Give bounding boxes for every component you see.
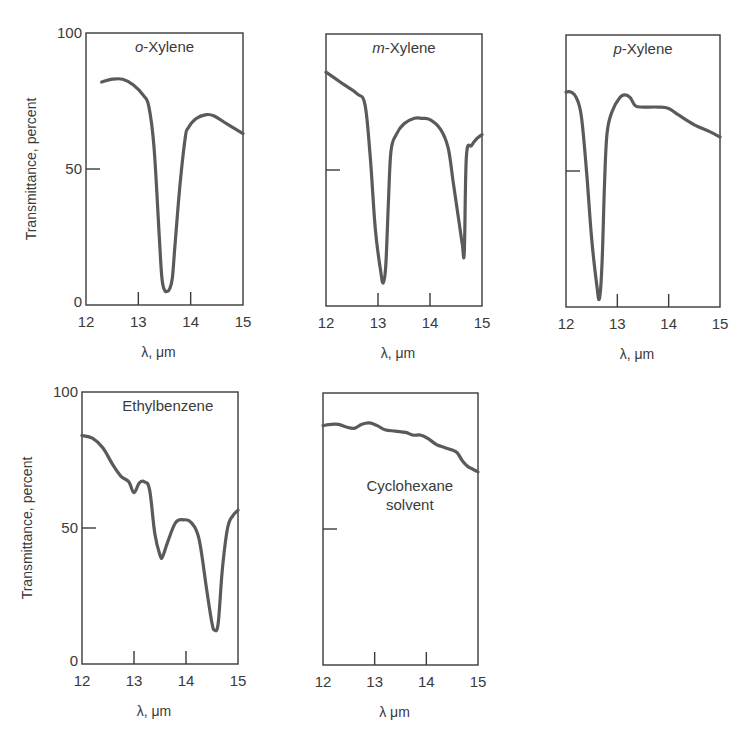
y-axis-title: Transmittance, percent bbox=[19, 457, 35, 600]
x-tick-label: 15 bbox=[235, 313, 252, 330]
y-axis-title: Transmittance, percent bbox=[23, 98, 39, 241]
x-tick-label: 14 bbox=[178, 672, 195, 689]
panel-title: solvent bbox=[386, 496, 434, 513]
x-tick-label: 15 bbox=[470, 673, 487, 690]
y-tick-label: 100 bbox=[53, 383, 78, 400]
y-tick-label: 100 bbox=[57, 24, 82, 41]
x-tick-label: 14 bbox=[422, 314, 439, 331]
x-tick-label: 13 bbox=[130, 313, 147, 330]
y-tick-label: 50 bbox=[65, 160, 82, 177]
spectra-figure: 12131415050100Transmittance, percentλ, μ… bbox=[0, 0, 747, 741]
panel-title: Ethylbenzene bbox=[122, 397, 213, 414]
y-tick-label: 0 bbox=[74, 293, 82, 310]
x-tick-label: 15 bbox=[230, 672, 247, 689]
y-tick-label: 50 bbox=[61, 519, 78, 536]
x-axis-title: λ, μm bbox=[137, 703, 172, 719]
x-axis-title: λ, μm bbox=[141, 344, 176, 360]
x-axis-title: λ, μm bbox=[620, 346, 655, 362]
ethylbenzene-spectrum-curve bbox=[82, 436, 238, 631]
plot-frame bbox=[323, 393, 478, 665]
panel-title: o-Xylene bbox=[135, 38, 194, 55]
plot-frame bbox=[86, 33, 243, 305]
x-tick-label: 15 bbox=[474, 314, 491, 331]
panel-title: m-Xylene bbox=[372, 39, 435, 56]
plot-frame bbox=[566, 35, 720, 307]
x-tick-label: 13 bbox=[126, 672, 143, 689]
panel-title: Cyclohexane bbox=[366, 477, 453, 494]
y-tick-label: 0 bbox=[70, 652, 78, 669]
x-tick-label: 12 bbox=[558, 315, 575, 332]
x-tick-label: 13 bbox=[609, 315, 626, 332]
m-xylene-spectrum-curve bbox=[326, 72, 482, 283]
chart-panel-o-xylene: 12131415050100Transmittance, percentλ, μ… bbox=[23, 24, 251, 360]
x-tick-label: 13 bbox=[370, 314, 387, 331]
x-tick-label: 12 bbox=[315, 673, 332, 690]
cyclohexane-solvent-spectrum-curve bbox=[323, 423, 478, 472]
o-xylene-spectrum-curve bbox=[102, 79, 243, 292]
x-axis-title: λ μm bbox=[379, 704, 410, 720]
chart-panel-m-xylene: 12131415λ, μmm-Xylene bbox=[318, 34, 491, 361]
chart-panel-ethylbenzene: 12131415050100Transmittance, percentλ, μ… bbox=[19, 383, 246, 719]
panel-title: p-Xylene bbox=[612, 40, 672, 57]
plot-frame bbox=[82, 392, 238, 664]
chart-panel-p-xylene: 12131415λ, μmp-Xylene bbox=[558, 35, 729, 362]
chart-panel-cyclohexane: 12131415λ μmCyclohexanesolvent bbox=[315, 393, 487, 720]
x-axis-title: λ, μm bbox=[381, 345, 416, 361]
x-tick-label: 12 bbox=[74, 672, 91, 689]
x-tick-label: 14 bbox=[418, 673, 435, 690]
x-tick-label: 13 bbox=[366, 673, 383, 690]
x-tick-label: 14 bbox=[660, 315, 677, 332]
x-tick-label: 14 bbox=[182, 313, 199, 330]
x-tick-label: 12 bbox=[78, 313, 95, 330]
x-tick-label: 15 bbox=[712, 315, 729, 332]
p-xylene-spectrum-curve bbox=[566, 92, 720, 300]
plot-frame bbox=[326, 34, 482, 306]
x-tick-label: 12 bbox=[318, 314, 335, 331]
